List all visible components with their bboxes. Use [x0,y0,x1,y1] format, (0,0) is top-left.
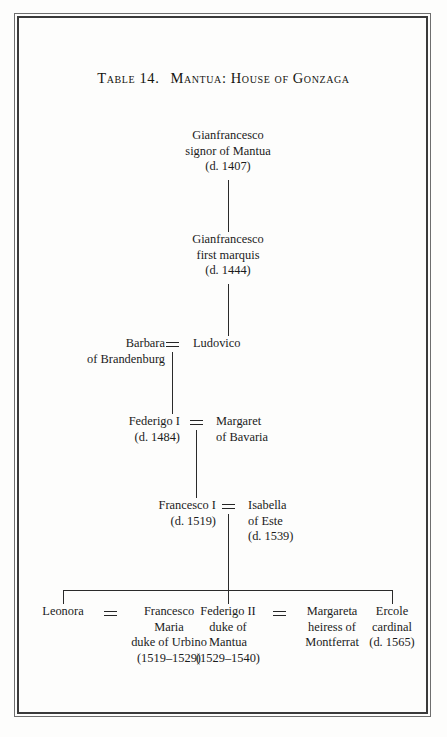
person-line: (d. 1407) [128,159,328,175]
person-line: (d. 1484) [60,430,180,446]
person-line: Isabella [248,498,398,514]
connector-gen5-siblings [228,514,229,590]
connector-gen2-gen3 [228,284,229,336]
person-line: (d. 1444) [128,263,328,279]
person-federigo-i: Federigo I (d. 1484) [60,414,180,445]
person-line: Mantua [186,635,270,651]
person-line: (1529–1540) [186,651,270,667]
marriage-symbol-barbara-ludovico [166,342,179,347]
person-francesco-i: Francesco I (d. 1519) [92,498,216,529]
marriage-symbol-leonora-francesco-maria [104,611,117,616]
person-barbara: Barbara of Brandenburg [10,336,165,367]
person-line: signor of Mantua [128,144,328,160]
connector-gen3-gen4 [172,352,173,414]
person-line: cardinal [355,620,429,636]
person-gianfrancesco-marquis: Gianfrancesco first marquis (d. 1444) [128,232,328,279]
person-isabella-este: Isabella of Este (d. 1539) [248,498,398,545]
person-line: of Este [248,514,398,530]
connector-gen1-gen2 [228,180,229,232]
person-line: of Brandenburg [10,352,165,368]
person-margaret-bavaria: Margaret of Bavaria [216,414,366,445]
person-line: Francesco I [92,498,216,514]
person-federigo-ii: Federigo II duke of Mantua (1529–1540) [186,604,270,666]
person-leonora: Leonora [23,604,103,620]
person-line: Federigo I [60,414,180,430]
person-line: duke of [186,620,270,636]
person-line: (d. 1565) [355,635,429,651]
person-ludovico: Ludovico [193,336,333,352]
child-stem-federigo-ii [228,590,229,604]
person-line: (d. 1539) [248,529,398,545]
scanned-page: Table 14.Mantua: House of Gonzaga Gianfr… [0,0,447,737]
marriage-symbol-federigo-margaret [190,420,203,425]
person-line: Gianfrancesco [128,232,328,248]
person-line: (d. 1519) [92,514,216,530]
child-stem-ercole [392,590,393,604]
person-line: first marquis [128,248,328,264]
marriage-symbol-francesco-isabella [222,504,235,509]
child-stem-leonora [63,590,64,604]
person-ercole: Ercole cardinal (d. 1565) [355,604,429,651]
person-line: Margaret [216,414,366,430]
marriage-symbol-federigo-margareta [273,611,286,616]
person-line: of Bavaria [216,430,366,446]
person-line: Barbara [10,336,165,352]
person-line: Federigo II [186,604,270,620]
person-line: Ercole [355,604,429,620]
person-line: Leonora [23,604,103,620]
person-line: Gianfrancesco [128,128,328,144]
person-gianfrancesco-signor: Gianfrancesco signor of Mantua (d. 1407) [128,128,328,175]
connector-gen4-gen5 [196,430,197,498]
person-line: Ludovico [193,336,333,352]
genealogy-chart: Gianfrancesco signor of Mantua (d. 1407)… [0,0,447,737]
